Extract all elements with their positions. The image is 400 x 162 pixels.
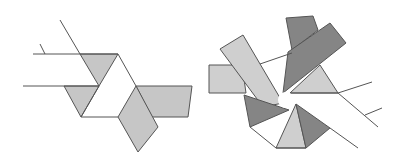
pinwheel-twist-crease-3 (365, 108, 382, 115)
twist-fold-diagram (0, 0, 400, 162)
pinwheel-twist-crease-5 (250, 127, 276, 148)
pinwheel-twist-crease-4 (330, 128, 358, 148)
triangle-twist-crease-0 (60, 20, 80, 54)
triangle-twist-figure (23, 20, 192, 152)
pinwheel-twist-figure (209, 16, 382, 148)
triangle-twist-crease-1 (40, 44, 45, 54)
center-hole (278, 92, 294, 108)
triangle-twist-crease-5 (118, 54, 136, 86)
triangle-twist-facet-0 (80, 54, 118, 86)
pinwheel-twist-crease-2 (338, 93, 378, 127)
diagram-canvas: Twist fold diagrams (0, 0, 400, 162)
triangle-twist-facet-1 (64, 86, 99, 117)
pinwheel-twist-crease-1 (338, 82, 372, 93)
